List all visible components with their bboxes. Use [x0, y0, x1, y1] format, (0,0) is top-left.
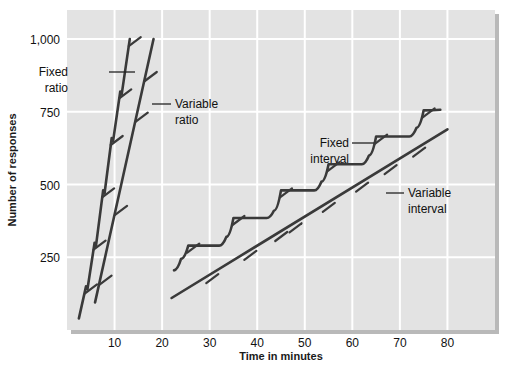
x-tick-label: 50	[298, 336, 312, 350]
x-axis-title: Time in minutes	[239, 350, 323, 362]
x-tick-label: 20	[155, 336, 169, 350]
x-tick-label: 40	[251, 336, 265, 350]
y-axis-title: Number of responses	[6, 113, 18, 226]
callout-variable-interval-line1: Variable	[408, 186, 451, 200]
callout-fixed-ratio-line2: ratio	[45, 81, 69, 95]
callout-variable-ratio-line1: Variable	[175, 97, 218, 111]
y-tick-label: 500	[40, 179, 60, 193]
callout-variable-ratio-line2: ratio	[175, 113, 199, 127]
y-tick-label: 750	[40, 106, 60, 120]
callout-variable-interval-line2: interval	[408, 202, 447, 216]
chart-svg: 1020304050607080 2505007501,000 Fixed ra…	[0, 0, 522, 381]
x-tick-label: 30	[203, 336, 217, 350]
plot-panel-background	[67, 10, 495, 330]
cumulative-response-chart-figure: 1020304050607080 2505007501,000 Fixed ra…	[0, 0, 522, 381]
x-tick-label: 80	[441, 336, 455, 350]
y-tick-label: 250	[40, 251, 60, 265]
x-tick-label: 60	[346, 336, 360, 350]
x-tick-label: 70	[393, 336, 407, 350]
callout-fixed-interval-line1: Fixed	[320, 136, 349, 150]
callout-fixed-ratio-line1: Fixed	[39, 65, 68, 79]
callout-fixed-interval-line2: interval	[310, 152, 349, 166]
x-tick-labels: 1020304050607080	[108, 336, 455, 350]
x-tick-label: 10	[108, 336, 122, 350]
y-tick-label: 1,000	[30, 33, 60, 47]
